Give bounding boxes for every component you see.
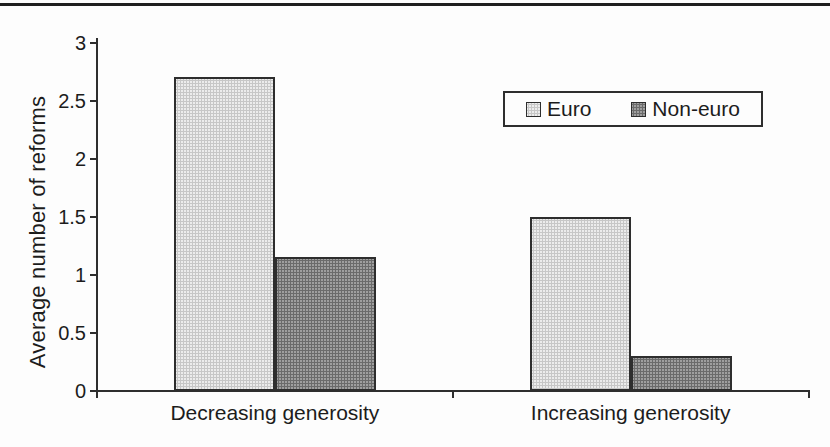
y-tick-label: 3 bbox=[34, 31, 86, 55]
legend-label-non-euro: Non-euro bbox=[652, 97, 740, 121]
bar-non-euro-decreasing-generosity bbox=[275, 257, 376, 390]
y-tick-label: 1 bbox=[34, 263, 86, 287]
legend-swatch-euro bbox=[526, 102, 541, 117]
legend-swatch-non-euro bbox=[631, 102, 646, 117]
y-tick-label: 2 bbox=[34, 147, 86, 171]
top-rule bbox=[0, 3, 830, 6]
x-axis-line bbox=[96, 390, 811, 392]
y-tick-label: 0 bbox=[34, 379, 86, 403]
legend-item-non-euro: Non-euro bbox=[631, 97, 740, 121]
legend-label-euro: Euro bbox=[547, 97, 591, 121]
bar-euro-increasing-generosity bbox=[530, 217, 631, 391]
bar-non-euro-increasing-generosity bbox=[631, 356, 732, 391]
x-tick-mark bbox=[808, 391, 810, 398]
x-tick-mark bbox=[452, 391, 454, 398]
x-category-label: Decreasing generosity bbox=[97, 401, 453, 425]
legend-item-euro: Euro bbox=[526, 97, 591, 121]
y-tick-label: 1.5 bbox=[34, 205, 86, 229]
x-category-label: Increasing generosity bbox=[453, 401, 809, 425]
figure: Average number of reforms 00.511.522.53D… bbox=[0, 0, 830, 447]
y-tick-label: 0.5 bbox=[34, 321, 86, 345]
y-tick-label: 2.5 bbox=[34, 89, 86, 113]
bar-euro-decreasing-generosity bbox=[174, 77, 275, 390]
legend: Euro Non-euro bbox=[503, 91, 763, 127]
y-axis-line bbox=[96, 38, 98, 393]
